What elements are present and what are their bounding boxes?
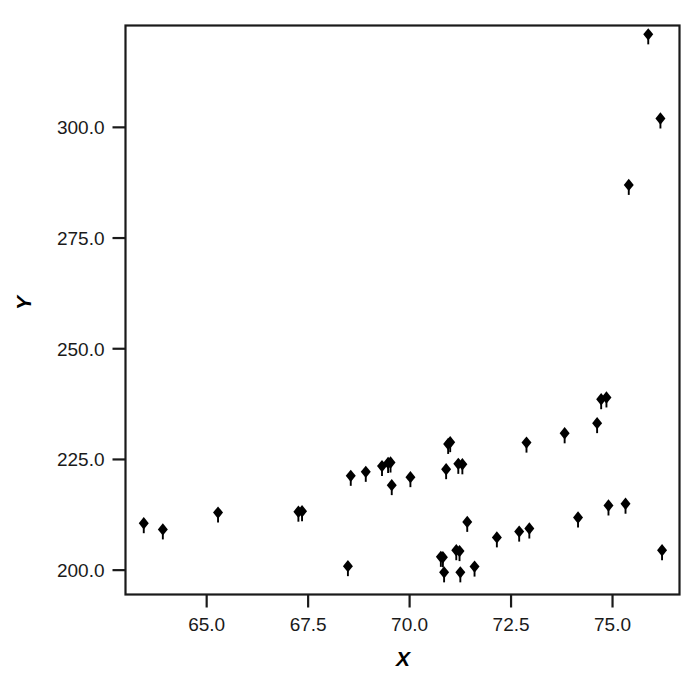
y-tick-label: 300.0	[57, 117, 105, 138]
y-tick-label: 225.0	[57, 449, 105, 470]
y-axis-title: Y	[12, 294, 35, 310]
plot-frame	[126, 26, 680, 595]
x-tick-label: 72.5	[493, 614, 530, 635]
y-axis-tick-labels: 200.0225.0250.0275.0300.0	[57, 117, 105, 581]
plot-canvas: 65.067.570.072.575.0 200.0225.0250.0275.…	[0, 0, 692, 678]
y-tick-label: 250.0	[57, 339, 105, 360]
y-axis-ticks	[113, 127, 126, 570]
y-tick-label: 200.0	[57, 560, 105, 581]
x-axis-tick-labels: 65.067.570.072.575.0	[188, 614, 631, 635]
y-tick-label: 275.0	[57, 228, 105, 249]
scatter-plot-figure: 65.067.570.072.575.0 200.0225.0250.0275.…	[0, 0, 692, 678]
x-axis-ticks	[207, 595, 613, 608]
x-tick-label: 65.0	[188, 614, 225, 635]
x-tick-label: 70.0	[391, 614, 428, 635]
x-tick-label: 75.0	[594, 614, 631, 635]
x-tick-label: 67.5	[290, 614, 327, 635]
x-axis-title: X	[395, 647, 412, 670]
